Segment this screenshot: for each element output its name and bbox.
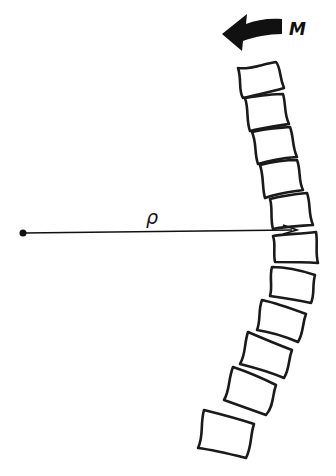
- spine-bending-diagram: M ρ: [0, 0, 336, 476]
- moment-label: M: [289, 19, 306, 39]
- vertebra-stack: [198, 62, 318, 458]
- radius-label: ρ: [146, 206, 158, 228]
- radius-vector: [20, 225, 298, 237]
- moment-arrow-icon: [222, 14, 282, 51]
